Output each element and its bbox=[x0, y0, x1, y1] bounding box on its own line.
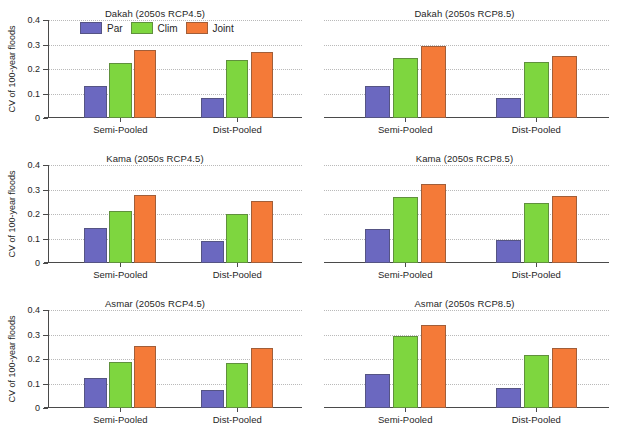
y-axis-tick-label: 0.2 bbox=[27, 354, 40, 364]
panel-title: Dakah (2050s RCP4.5) bbox=[0, 8, 310, 19]
y-axis-tick-label: 0 bbox=[35, 113, 40, 123]
x-axis-tick bbox=[120, 408, 121, 412]
bar-clim-dist-pooled bbox=[524, 62, 549, 118]
bar-clim-dist-pooled bbox=[226, 214, 248, 263]
panel-asmar-2050s-rcp8.5: Asmar (2050s RCP8.5)Semi-PooledDist-Pool… bbox=[310, 290, 619, 430]
y-axis-label-text: CV of 100-year floods bbox=[7, 25, 17, 112]
x-axis-tick bbox=[536, 263, 537, 267]
x-axis-tick bbox=[237, 263, 238, 267]
y-axis-label-text: CV of 100-year floods bbox=[7, 170, 17, 257]
y-axis-line bbox=[48, 165, 49, 263]
gridline bbox=[48, 335, 302, 336]
plot-area: 00.10.20.30.4Semi-PooledDist-Pooled bbox=[48, 165, 302, 263]
bar-joint-semi-pooled bbox=[421, 46, 446, 118]
legend-item-par[interactable]: Par bbox=[80, 22, 123, 34]
y-axis-tick-label: 0 bbox=[35, 403, 40, 413]
gridline bbox=[324, 310, 609, 311]
gridline bbox=[48, 310, 302, 311]
gridline bbox=[48, 190, 302, 191]
x-axis-tick-label-dist-pooled: Dist-Pooled bbox=[512, 414, 561, 425]
bar-par-semi-pooled bbox=[365, 229, 390, 263]
x-axis-tick-label-dist-pooled: Dist-Pooled bbox=[512, 269, 561, 280]
gridline bbox=[324, 45, 609, 46]
bar-joint-dist-pooled bbox=[251, 348, 273, 408]
gridline bbox=[324, 165, 609, 166]
x-axis-tick-label-semi-pooled: Semi-Pooled bbox=[378, 124, 432, 135]
panel-dakah-2050s-rcp8.5: Dakah (2050s RCP8.5)Semi-PooledDist-Pool… bbox=[310, 0, 619, 145]
legend-item-clim[interactable]: Clim bbox=[131, 22, 178, 34]
bar-joint-dist-pooled bbox=[552, 348, 577, 408]
bar-joint-dist-pooled bbox=[251, 201, 273, 263]
panel-kama-2050s-rcp8.5: Kama (2050s RCP8.5)Semi-PooledDist-Poole… bbox=[310, 145, 619, 290]
figure-multi-panel-bar-chart: Dakah (2050s RCP4.5)CV of 100-year flood… bbox=[0, 0, 619, 430]
bar-clim-semi-pooled bbox=[393, 58, 418, 118]
x-axis-tick bbox=[536, 118, 537, 122]
y-axis-tick-label: 0.1 bbox=[27, 89, 40, 99]
bar-joint-semi-pooled bbox=[421, 325, 446, 408]
gridline bbox=[324, 190, 609, 191]
x-axis-tick bbox=[120, 263, 121, 267]
legend-item-joint[interactable]: Joint bbox=[186, 22, 234, 34]
bar-par-semi-pooled bbox=[84, 86, 106, 118]
x-axis-tick-label-semi-pooled: Semi-Pooled bbox=[378, 414, 432, 425]
x-axis-tick-label-semi-pooled: Semi-Pooled bbox=[93, 269, 147, 280]
bar-par-dist-pooled bbox=[201, 241, 223, 263]
x-axis-tick bbox=[237, 408, 238, 412]
bar-clim-semi-pooled bbox=[109, 63, 131, 118]
x-axis-tick-label-semi-pooled: Semi-Pooled bbox=[93, 124, 147, 135]
bar-par-semi-pooled bbox=[84, 378, 106, 408]
bar-par-dist-pooled bbox=[496, 240, 521, 263]
gridline bbox=[48, 165, 302, 166]
y-axis-tick-label: 0.3 bbox=[27, 330, 40, 340]
bar-joint-dist-pooled bbox=[552, 196, 577, 263]
bar-joint-semi-pooled bbox=[421, 184, 446, 263]
legend-swatch-par bbox=[80, 22, 102, 34]
gridline bbox=[324, 20, 609, 21]
panel-title: Kama (2050s RCP8.5) bbox=[310, 153, 619, 164]
panel-dakah-2050s-rcp4.5: Dakah (2050s RCP4.5)CV of 100-year flood… bbox=[0, 0, 310, 145]
y-axis-tick-label: 0.3 bbox=[27, 40, 40, 50]
bar-par-dist-pooled bbox=[496, 98, 521, 118]
panel-title: Kama (2050s RCP4.5) bbox=[0, 153, 310, 164]
panel-title: Dakah (2050s RCP8.5) bbox=[310, 8, 619, 19]
plot-area: Semi-PooledDist-Pooled bbox=[324, 310, 609, 408]
panel-title: Asmar (2050s RCP4.5) bbox=[0, 298, 310, 309]
plot-area: 00.10.20.30.4Semi-PooledDist-Pooled bbox=[48, 310, 302, 408]
y-axis-line bbox=[48, 310, 49, 408]
bar-clim-semi-pooled bbox=[109, 362, 131, 408]
x-axis-tick-label-semi-pooled: Semi-Pooled bbox=[378, 269, 432, 280]
x-axis-tick-label-dist-pooled: Dist-Pooled bbox=[213, 414, 262, 425]
y-axis-tick-label: 0.3 bbox=[27, 185, 40, 195]
y-axis-tick-label: 0.1 bbox=[27, 379, 40, 389]
x-axis-tick bbox=[536, 408, 537, 412]
bar-par-dist-pooled bbox=[201, 98, 223, 118]
legend: ParClimJoint bbox=[80, 22, 234, 34]
y-axis-label-text: CV of 100-year floods bbox=[7, 315, 17, 402]
y-axis-label: CV of 100-year floods bbox=[6, 20, 18, 118]
y-axis-label: CV of 100-year floods bbox=[6, 165, 18, 263]
legend-label: Clim bbox=[158, 23, 178, 34]
bar-joint-dist-pooled bbox=[552, 56, 577, 118]
panel-title: Asmar (2050s RCP8.5) bbox=[310, 298, 619, 309]
bar-joint-semi-pooled bbox=[134, 50, 156, 118]
plot-area: Semi-PooledDist-Pooled bbox=[324, 20, 609, 118]
x-axis-tick bbox=[120, 118, 121, 122]
legend-swatch-joint bbox=[186, 22, 208, 34]
bar-clim-dist-pooled bbox=[226, 60, 248, 118]
y-axis-tick-label: 0 bbox=[35, 258, 40, 268]
y-axis-tick bbox=[43, 263, 48, 264]
y-axis-tick-label: 0.2 bbox=[27, 64, 40, 74]
bar-clim-dist-pooled bbox=[524, 355, 549, 408]
x-axis-tick-label-dist-pooled: Dist-Pooled bbox=[213, 269, 262, 280]
bar-par-dist-pooled bbox=[496, 388, 521, 408]
bar-par-semi-pooled bbox=[365, 86, 390, 118]
x-axis-tick bbox=[237, 118, 238, 122]
bar-par-semi-pooled bbox=[365, 374, 390, 408]
gridline bbox=[324, 335, 609, 336]
bar-par-semi-pooled bbox=[84, 228, 106, 263]
bar-clim-semi-pooled bbox=[109, 211, 131, 263]
y-axis-tick-label: 0.4 bbox=[27, 15, 40, 25]
x-axis-tick-label-dist-pooled: Dist-Pooled bbox=[213, 124, 262, 135]
y-axis-tick-label: 0.4 bbox=[27, 305, 40, 315]
plot-area: 00.10.20.30.4Semi-PooledDist-Pooled bbox=[48, 20, 302, 118]
